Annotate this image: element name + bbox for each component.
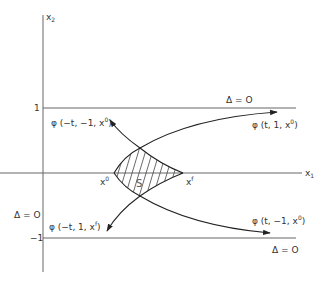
trajectory-backward-lower — [107, 173, 183, 231]
boundary-label-lower: Δ = O — [272, 246, 299, 255]
region-s-label: S — [136, 179, 142, 189]
trajectory-backward-upper — [110, 120, 183, 173]
phase-plane-figure: x2 x1 1 −1 Δ = O Δ = O Δ = O x0 xf S φ (… — [0, 0, 329, 283]
tick-label-minus-1: −1 — [30, 234, 43, 243]
x2-axis-label: x2 — [46, 13, 55, 23]
diagram-canvas — [0, 0, 329, 283]
end-point-label: xf — [186, 176, 193, 187]
trajectory-label-negt-neg1-x0: φ (−t, −1, x0) — [51, 117, 112, 128]
start-point-label: x0 — [100, 176, 109, 187]
reachable-set-hatching — [110, 140, 191, 200]
trajectory-label-negt-1-xf: φ (−t, 1, xf) — [49, 221, 101, 232]
trajectory-label-t-1-x0: φ (t, 1, x0) — [252, 119, 298, 130]
boundary-label-left: Δ = O — [14, 211, 41, 220]
boundary-label-upper: Δ = O — [226, 96, 253, 105]
tick-label-1: 1 — [34, 104, 40, 113]
trajectory-label-t-neg1-x0: φ (t, −1, x0) — [252, 215, 305, 226]
x1-axis-label: x1 — [305, 169, 314, 179]
